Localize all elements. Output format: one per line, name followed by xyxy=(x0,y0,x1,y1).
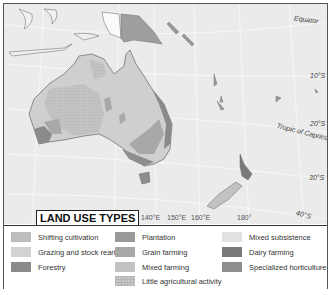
swatch-shifting-cultivation xyxy=(11,232,31,242)
lat-30s-label: 30°S xyxy=(309,174,324,181)
swatch-mixed-subsistence xyxy=(222,232,242,242)
legend-item-grain-farming: Grain farming xyxy=(115,247,187,257)
lon-150e-label: 150°E xyxy=(167,214,186,221)
swatch-dairy-farming xyxy=(222,247,242,257)
legend-item-mixed-farming: Mixed farming xyxy=(115,262,189,272)
tasmania xyxy=(139,172,150,184)
swatch-little-agricultural-activity xyxy=(115,276,135,286)
swatch-grazing xyxy=(11,247,31,257)
legend: Shifting cultivation Grazing and stock r… xyxy=(4,225,327,289)
map-figure: Equator 10°S 20°S Tropic of Capricorn 30… xyxy=(3,3,328,289)
map-area: Equator 10°S 20°S Tropic of Capricorn 30… xyxy=(4,4,327,224)
swatch-mixed-farming xyxy=(115,262,135,272)
legend-title: LAND USE TYPES xyxy=(36,210,139,226)
map-graphic xyxy=(4,4,327,224)
swatch-forestry xyxy=(11,262,31,272)
legend-item-grazing: Grazing and stock rearing xyxy=(11,247,124,257)
new-zealand-south-island xyxy=(207,182,242,209)
legend-item-plantation: Plantation xyxy=(115,232,175,242)
legend-item-shifting-cultivation: Shifting cultivation xyxy=(11,232,98,242)
swatch-grain-farming xyxy=(115,247,135,257)
lat-20s-label: 20°S xyxy=(310,120,325,127)
lat-10s-label: 10°S xyxy=(310,72,325,79)
legend-item-dairy-farming: Dairy farming xyxy=(222,247,294,257)
swatch-specialized-horticulture xyxy=(222,262,242,272)
lon-180-label: 180° xyxy=(237,214,251,221)
legend-item-mixed-subsistence: Mixed subsistence xyxy=(222,232,311,242)
legend-item-specialized-horticulture: Specialized horticulture xyxy=(222,262,327,272)
swatch-plantation xyxy=(115,232,135,242)
legend-item-little-agricultural-activity: Little agricultural activity xyxy=(115,276,222,286)
papua-new-guinea xyxy=(121,14,162,44)
legend-item-forestry: Forestry xyxy=(11,262,66,272)
lon-140e-label: 140°E xyxy=(141,214,160,221)
lon-160e-label: 160°E xyxy=(191,214,210,221)
